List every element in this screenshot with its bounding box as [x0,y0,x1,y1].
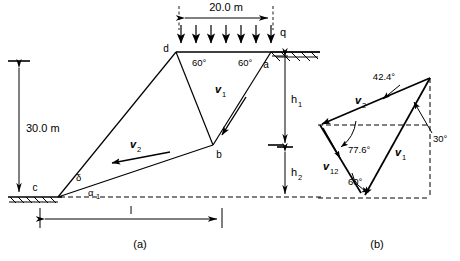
hodograph-v2-label-sub: 2 [362,101,366,110]
angle-776-annotation: 77.6° [341,121,370,155]
hodograph-v1-label: v [395,146,402,158]
hodograph-v1-vector [365,78,430,195]
panel-b: v 2 v 1 v 12 42.4° 30° [318,71,448,250]
wedge-line-b-c [58,145,213,197]
angle-label-at-a: 60° [238,57,253,68]
v1-arrow [222,97,246,135]
hodograph-v2-vector [322,78,430,124]
surcharge-load-arrows: q [181,25,286,43]
ground-support-at-c [8,197,62,203]
dimension-label-top-width: 20.0 m [209,1,243,13]
point-label-a: a [263,59,269,70]
velocity-vector-v2-panel-a: v 2 [112,138,170,163]
panel-a: 20.0 m q [8,1,322,250]
point-label-c: c [33,182,38,193]
point-label-d: d [163,43,169,54]
dimension-label-h2-sub: 2 [298,173,302,182]
hodograph-v2-label: v [355,94,362,106]
angle-42-annotation: 42.4° [373,71,400,99]
velocity-label-v2: v [130,138,137,150]
figure-root: 20.0 m q [0,0,460,261]
dimension-label-h1-sub: 1 [298,100,302,109]
hodograph-v12-label: v [323,160,330,172]
surcharge-label-q: q [280,26,286,38]
angle-30-annotation: 30° [414,102,448,144]
angle-label-delta: δ [76,172,81,183]
dimension-label-base-length: l [130,204,132,216]
velocity-label-v2-sub: 2 [137,145,141,154]
velocity-label-v1-sub: 1 [222,90,226,99]
angle-label-alpha1-group: α 1 [88,187,100,201]
velocity-vector-v1-panel-a: v 1 [215,83,246,135]
dimension-label-h2: h [291,166,297,178]
velocity-label-v1: v [215,83,222,95]
angle-776-label: 77.6° [348,144,370,155]
panel-b-caption: (b) [370,238,383,250]
failure-wedge-outline [58,52,271,197]
hodograph-v12-label-sub: 12 [330,167,338,176]
hodograph-v12-arrowhead [323,128,340,158]
angle-30-leader [414,102,432,133]
dimension-h1: h 1 [285,57,302,143]
dimension-label-h1: h [291,93,297,105]
panel-a-caption: (a) [133,238,146,250]
dimension-label-slope-height: 30.0 m [26,122,60,134]
ground-hatching-right [271,52,320,61]
engineering-diagram: 20.0 m q [0,0,460,261]
dimension-base-length: l [40,204,222,228]
angle-30-label: 30° [433,133,448,144]
angle-label-alpha1: α [88,187,94,198]
point-label-b: b [216,149,222,160]
dimension-slope-height: 30.0 m [8,61,60,192]
angle-label-at-d: 60° [192,57,207,68]
angle-42-label: 42.4° [373,71,395,82]
hodograph-v1-label-sub: 1 [402,153,406,162]
angle-60-label: 60° [348,176,363,187]
dimension-h2: h 2 [285,152,302,194]
